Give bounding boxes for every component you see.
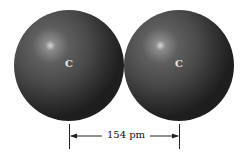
right-arrowhead-icon <box>172 134 179 139</box>
left-arrowhead-icon <box>70 134 77 139</box>
bond-length-label: 154 pm <box>102 129 150 140</box>
